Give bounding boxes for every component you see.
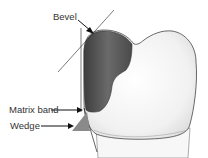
tooth-illustration	[0, 0, 208, 158]
wedge-label: Wedge	[10, 121, 40, 131]
dental-diagram: Bevel Matrix band Wedge	[0, 0, 208, 158]
matrix-band-arrowhead	[77, 107, 83, 113]
wedge-arrowhead	[68, 123, 74, 129]
bevel-label: Bevel	[53, 12, 77, 22]
wedge-shape	[72, 112, 90, 131]
matrix-band-label: Matrix band	[9, 105, 59, 115]
